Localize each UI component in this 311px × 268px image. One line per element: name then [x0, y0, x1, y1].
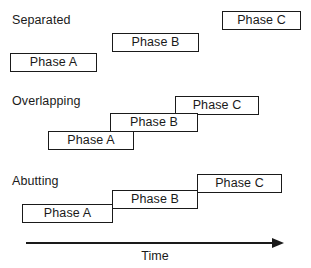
phase-bar-overlapping-phase-a: Phase A: [48, 131, 134, 150]
phase-bar-label: Phase B: [132, 36, 180, 49]
phase-bar-abutting-phase-b: Phase B: [112, 190, 198, 209]
phase-bar-overlapping-phase-b: Phase B: [110, 113, 198, 132]
phase-bar-label: Phase C: [215, 177, 264, 190]
phase-bar-label: Phase A: [44, 207, 91, 220]
phase-bar-separated-phase-c: Phase C: [222, 11, 301, 30]
phase-bar-label: Phase A: [67, 134, 114, 147]
arrow-right-icon: [272, 238, 284, 248]
time-axis-label: Time: [105, 250, 205, 263]
group-label-separated: Separated: [12, 14, 71, 27]
phase-bar-label: Phase B: [131, 193, 179, 206]
phase-bar-abutting-phase-c: Phase C: [197, 174, 282, 193]
phase-bar-label: Phase C: [193, 99, 242, 112]
group-label-abutting: Abutting: [12, 175, 59, 188]
phase-bar-label: Phase A: [30, 56, 77, 69]
phase-bar-abutting-phase-a: Phase A: [22, 204, 113, 223]
group-label-overlapping: Overlapping: [12, 95, 81, 108]
phase-bar-label: Phase C: [237, 14, 286, 27]
phase-bar-label: Phase B: [130, 116, 178, 129]
phase-bar-separated-phase-a: Phase A: [10, 53, 97, 72]
phase-bar-separated-phase-b: Phase B: [112, 33, 199, 52]
time-axis-line: [26, 242, 274, 244]
phase-timeline-diagram: Separated Phase C Phase B Phase A Overla…: [0, 0, 311, 268]
